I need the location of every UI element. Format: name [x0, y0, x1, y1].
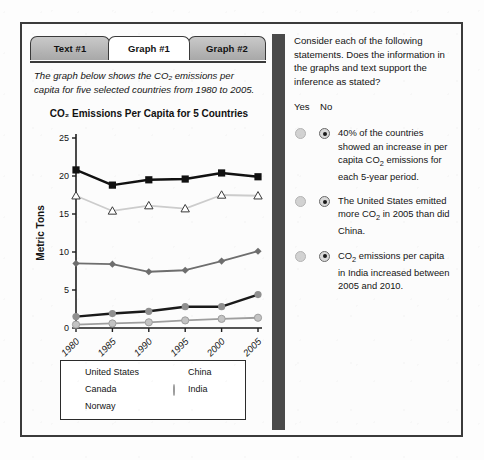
- question-prompt: Consider each of the following statement…: [294, 34, 454, 88]
- radio-yes-2[interactable]: [295, 196, 306, 207]
- svg-text:25: 25: [59, 133, 69, 143]
- svg-text:2005: 2005: [240, 335, 264, 359]
- intro-text: The graph below shows the CO₂ emissions …: [34, 69, 262, 96]
- chart-svg: 0510152025Metric Tons1980198519901995200…: [30, 126, 266, 376]
- tab-graph-2[interactable]: Graph #2: [188, 36, 266, 60]
- radio-yes-3[interactable]: [295, 251, 306, 262]
- legend-label-united-states: United States: [85, 367, 139, 377]
- radio-no-3[interactable]: [319, 251, 330, 262]
- radio-no-2[interactable]: [319, 196, 330, 207]
- panel-divider: [272, 34, 285, 430]
- chart-legend: United States Canada Norway China India: [60, 360, 246, 420]
- chart-title: CO₂ Emissions Per Capita for 5 Countries: [34, 108, 264, 119]
- statement-row-1: 40% of the countries showed an increase …: [294, 126, 454, 183]
- tab-graph-2-label: Graph #2: [206, 43, 248, 54]
- statement-row-3: CO2 emissions per capita in India increa…: [294, 249, 454, 292]
- svg-text:5: 5: [64, 285, 69, 295]
- tab-graph-1-label: Graph #1: [128, 43, 170, 54]
- tab-text-1[interactable]: Text #1: [30, 36, 110, 60]
- statement-row-2: The United States emitted more CO2 in 20…: [294, 194, 454, 237]
- legend-label-china: China: [188, 367, 212, 377]
- legend-label-norway: Norway: [85, 401, 116, 411]
- svg-text:Metric Tons: Metric Tons: [35, 205, 46, 261]
- yes-no-header: Yes No: [294, 101, 454, 115]
- content-frame: Text #1 Graph #1 Graph #2 The graph belo…: [20, 22, 463, 437]
- legend-item-canada: Canada: [70, 384, 117, 394]
- statement-text-1: 40% of the countries showed an increase …: [338, 126, 454, 183]
- legend-item-norway: Norway: [70, 401, 116, 411]
- yes-column-label: Yes: [294, 101, 310, 112]
- tab-strip: Text #1 Graph #1 Graph #2: [30, 36, 266, 62]
- filled-circle-light-icon: [173, 384, 175, 396]
- legend-label-canada: Canada: [85, 384, 117, 394]
- svg-text:10: 10: [59, 247, 69, 257]
- svg-text:20: 20: [59, 171, 69, 181]
- svg-text:2000: 2000: [204, 335, 228, 359]
- legend-item-india: India: [173, 384, 208, 394]
- svg-text:0: 0: [64, 323, 69, 333]
- legend-item-united-states: United States: [70, 367, 139, 377]
- left-panel: Text #1 Graph #1 Graph #2 The graph belo…: [22, 24, 266, 435]
- tab-underline: [30, 61, 266, 63]
- line-chart: 0510152025Metric Tons1980198519901995200…: [30, 126, 266, 376]
- right-panel: Consider each of the following statement…: [294, 34, 454, 292]
- screenshot-root: Text #1 Graph #1 Graph #2 The graph belo…: [0, 0, 484, 460]
- legend-item-china: China: [173, 367, 212, 377]
- tab-graph-1[interactable]: Graph #1: [108, 36, 190, 60]
- radio-yes-1[interactable]: [295, 128, 306, 139]
- open-triangle-icon: [70, 385, 78, 403]
- legend-label-india: India: [188, 384, 208, 394]
- statement-text-3: CO2 emissions per capita in India increa…: [338, 249, 454, 292]
- svg-text:1995: 1995: [168, 335, 191, 358]
- no-column-label: No: [320, 101, 332, 112]
- radio-no-1[interactable]: [319, 128, 330, 139]
- svg-text:1985: 1985: [95, 335, 118, 358]
- svg-text:1980: 1980: [59, 335, 82, 358]
- svg-text:1990: 1990: [131, 335, 154, 358]
- svg-text:15: 15: [59, 209, 69, 219]
- statement-text-2: The United States emitted more CO2 in 20…: [338, 194, 454, 237]
- tab-text-1-label: Text #1: [54, 43, 87, 54]
